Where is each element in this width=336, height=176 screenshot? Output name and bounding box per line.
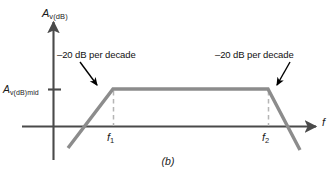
- x-axis-label: f: [322, 117, 325, 128]
- f2-tick-label: f2: [262, 132, 269, 143]
- f2-label-subscript: 2: [265, 136, 269, 145]
- midband-gain-label-main: A: [3, 83, 10, 95]
- figure-caption: (b): [0, 156, 336, 167]
- y-axis-label: Av(dB): [42, 8, 68, 19]
- y-axis-label-subscript: v(dB): [49, 12, 67, 21]
- right-slope-arrow: [277, 62, 290, 85]
- midband-gain-label-subscript: v(dB)mid: [10, 89, 39, 96]
- left-slope-annotation: –20 dB per decade: [57, 50, 136, 60]
- bode-plot-figure: Av(dB) f Av(dB)mid –20 dB per decade –20…: [0, 0, 336, 176]
- plot-canvas: [0, 0, 336, 176]
- right-slope-annotation: –20 dB per decade: [215, 50, 294, 60]
- f1-label-subscript: 1: [110, 136, 114, 145]
- midband-gain-label: Av(dB)mid: [3, 84, 39, 95]
- left-slope-arrow: [80, 62, 97, 85]
- f1-tick-label: f1: [107, 132, 114, 143]
